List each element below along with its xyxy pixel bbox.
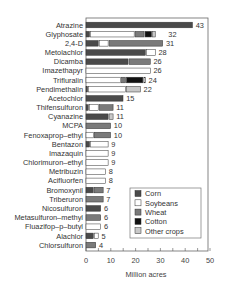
bar-segment-soybeans [86, 224, 101, 230]
bar-total-value: 11 [116, 112, 124, 121]
category-labels: AtrazineGlyphosate2,4-DMetolachlorDicamb… [14, 21, 83, 250]
bar-segment-soybeans [94, 233, 98, 239]
category-label: Glyphosate [46, 30, 83, 39]
bar-total-value: 43 [196, 21, 204, 30]
bar-segment-other-crops [109, 114, 113, 120]
bar-segment-soybeans [91, 31, 135, 37]
bar-total-value: 5 [101, 232, 105, 241]
bar-total-value: 15 [126, 94, 134, 103]
bar-segment-soybeans [89, 105, 98, 111]
bar-segment-corn [86, 41, 98, 47]
bar-segment-other-crops [144, 77, 145, 83]
bar-segment-soybeans [86, 160, 108, 166]
bar-segment-corn [86, 50, 145, 56]
bar-segment-soybeans [86, 178, 106, 184]
bar-segment-soybeans [91, 141, 109, 147]
bar-segment-corn [86, 206, 101, 212]
bar-segment-soybeans [86, 77, 121, 83]
bar-segment-other-crops [126, 86, 140, 92]
legend-label: Wheat [145, 208, 166, 217]
category-label: Chlorimuron–ethyl [23, 158, 83, 167]
bar-total-value: 31 [166, 39, 174, 48]
category-label: Dicamba [54, 57, 84, 66]
category-label: Bentazon [52, 140, 83, 149]
bar-segment-corn [86, 59, 128, 65]
bar-total-value: 26 [153, 57, 161, 66]
legend-swatch-corn [135, 191, 141, 197]
bar-segment-wheat [94, 132, 110, 138]
category-label: Alachlor [56, 232, 83, 241]
bar-total-value: 8 [109, 167, 113, 176]
category-label: Cyanazine [48, 112, 83, 121]
bar-total-value: 32 [168, 30, 176, 39]
bar-segment-soybeans [89, 86, 126, 92]
category-label: Fluazifop–p–butyl [25, 222, 83, 231]
bar-total-value: 7 [106, 195, 110, 204]
bar-segment-corn [86, 105, 88, 111]
bar-segment-corn [86, 141, 90, 147]
bar-segment-wheat [129, 59, 150, 65]
x-tick-label: 0 [84, 256, 88, 265]
legend-swatch-wheat [135, 209, 141, 215]
legend-label: Corn [145, 189, 161, 198]
legend: CornSoybeansWheatCottonOther crops [130, 188, 201, 238]
bar-total-value: 6 [104, 213, 108, 222]
bar-segment-other-crops [153, 31, 156, 37]
bar-total-value: 9 [111, 140, 115, 149]
bar-total-value: 11 [116, 103, 124, 112]
bar-segment-wheat [122, 77, 126, 83]
bar-total-value: 8 [109, 176, 113, 185]
x-tick-label: 10 [107, 256, 115, 265]
category-label: Thifensulfuron [36, 103, 83, 112]
bar-segment-corn [86, 233, 93, 239]
category-label: Fenoxaprop–ethyl [24, 131, 84, 140]
bar-total-value: 7 [106, 186, 110, 195]
bar-segment-wheat [86, 215, 101, 221]
bar-segment-wheat [94, 187, 103, 193]
category-label: Imazaquin [49, 149, 83, 158]
bar-segment-soybeans [86, 132, 93, 138]
x-axis-label: Million acres [125, 270, 166, 279]
category-label: Acifluorfen [48, 176, 83, 185]
legend-label: Soybeans [145, 199, 178, 208]
bar-total-value: 6 [104, 204, 108, 213]
category-label: 2,4-D [65, 39, 83, 48]
category-label: Chlorsulfuron [39, 241, 83, 250]
bar-total-value: 9 [111, 158, 115, 167]
category-label: Trifluralin [53, 76, 83, 85]
bar-segment-soybeans [146, 50, 155, 56]
category-label: Triberuron [49, 195, 83, 204]
bar-total-value: 10 [114, 121, 122, 130]
bar-total-value: 4 [99, 241, 103, 250]
category-label: Acetochlor [48, 94, 83, 103]
bar-segment-cotton [145, 31, 151, 37]
category-label: Metasulfuron–methyl [14, 213, 83, 222]
bar-segment-wheat [86, 123, 111, 129]
bar-segment-corn [86, 114, 108, 120]
legend-swatch-cotton [135, 218, 141, 224]
x-tick-label: 20 [131, 256, 139, 265]
bar-segment-corn [86, 86, 88, 92]
bar-segment-wheat [109, 41, 163, 47]
bar-segment-wheat [99, 105, 113, 111]
bar-segment-corn [86, 22, 192, 28]
bar-total-value: 24 [149, 76, 157, 85]
bar-segment-soybeans [86, 68, 150, 74]
bar-total-value: 28 [158, 48, 166, 57]
x-tick-label: 40 [181, 256, 189, 265]
bar-segment-corn [86, 96, 123, 102]
x-tick-label: 50 [206, 256, 214, 265]
bar-segment-corn [86, 187, 93, 193]
bar-segment-wheat [135, 31, 144, 37]
bar-segment-corn [86, 31, 90, 37]
bar-segment-soybeans [86, 151, 108, 157]
legend-label: Cotton [145, 217, 167, 226]
category-label: Metribuzin [49, 167, 83, 176]
category-label: Pendimethalin [36, 85, 83, 94]
bar-segment-soybeans [99, 41, 108, 47]
bar-total-value: 6 [104, 222, 108, 231]
category-label: MCPA [62, 121, 83, 130]
legend-swatch-soybeans [135, 200, 141, 206]
bar-segment-soybeans [86, 169, 106, 175]
bar-total-value: 10 [114, 131, 122, 140]
